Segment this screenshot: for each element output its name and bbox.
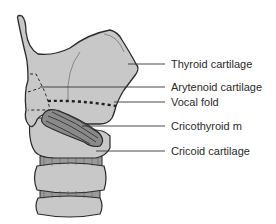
label-cricothyroid-muscle: Cricothyroid m	[171, 120, 242, 132]
label-vocal-fold: Vocal fold	[171, 96, 219, 108]
trachea	[35, 156, 107, 217]
label-thyroid-cartilage: Thyroid cartilage	[171, 58, 252, 70]
larynx-illustration	[0, 0, 276, 224]
thyroid-cartilage-shape	[18, 16, 139, 127]
label-cricoid-cartilage: Cricoid cartilage	[171, 145, 250, 157]
label-arytenoid-cartilage: Arytenoid cartilage	[171, 81, 262, 93]
larynx-diagram: Thyroid cartilage Arytenoid cartilage Vo…	[0, 0, 276, 224]
